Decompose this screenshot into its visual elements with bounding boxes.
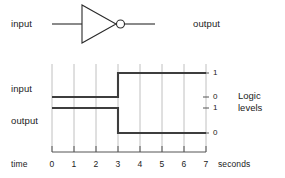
input-waveform: [52, 73, 206, 97]
not-gate-bubble-icon: [117, 20, 125, 28]
time-tick-label-2: 2: [90, 160, 102, 169]
waveform-row-label-output: output: [11, 116, 38, 126]
output-waveform: [52, 108, 206, 133]
time-units-label: seconds: [218, 160, 250, 169]
logic-levels-caption: Logic levels: [238, 90, 262, 114]
waveform-row-label-input: input: [11, 84, 32, 94]
time-tick-label-6: 6: [178, 160, 190, 169]
time-tick-label-1: 1: [68, 160, 80, 169]
logic-levels-caption-line2: levels: [238, 102, 262, 114]
time-tick-label-0: 0: [46, 160, 58, 169]
time-axis-label: time: [11, 160, 27, 169]
time-tick-label-4: 4: [134, 160, 146, 169]
not-gate-triangle: [82, 5, 116, 43]
logic-levels-caption-line1: Logic: [238, 90, 262, 102]
logic-gate-timing-figure: input output: [0, 0, 285, 178]
time-tick-label-7: 7: [200, 160, 212, 169]
figure-vector-layer: [0, 0, 285, 178]
level-label-input-low: 0: [213, 93, 218, 101]
time-tick-label-3: 3: [112, 160, 124, 169]
level-label-input-high: 1: [213, 69, 218, 77]
level-label-output-high: 1: [213, 104, 218, 112]
time-tick-label-5: 5: [156, 160, 168, 169]
time-axis: [52, 146, 206, 152]
level-label-output-low: 0: [213, 129, 218, 137]
